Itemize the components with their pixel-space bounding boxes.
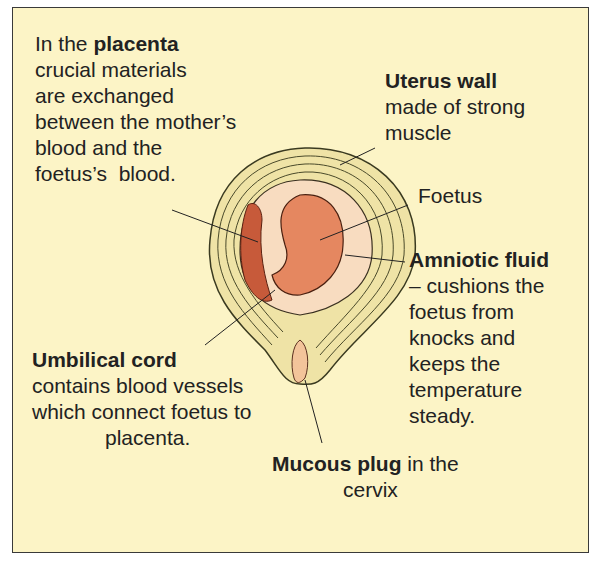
amniotic-fluid-term: Amniotic fluid bbox=[409, 248, 549, 271]
placenta-label: In the placenta bbox=[35, 32, 179, 57]
foetus-label: Foetus bbox=[418, 184, 482, 209]
placenta-desc-3: between the mother’s bbox=[35, 110, 236, 135]
placenta-desc-2: are exchanged bbox=[35, 84, 174, 109]
placenta-desc-4: blood and the bbox=[35, 136, 162, 161]
amniotic-desc-3: knocks and bbox=[409, 326, 515, 351]
uterus-wall-desc-1: made of strong bbox=[385, 95, 525, 120]
umbilical-desc-2: which connect foetus to bbox=[32, 400, 251, 425]
umbilical-cord-term: Umbilical cord bbox=[32, 348, 177, 371]
placenta-term: placenta bbox=[93, 32, 178, 55]
mucous-plug-desc-1: cervix bbox=[343, 478, 398, 503]
amniotic-desc-6: steady. bbox=[409, 404, 475, 429]
umbilical-desc-3: placenta. bbox=[105, 426, 190, 451]
uterus-wall-desc-2: muscle bbox=[385, 121, 452, 146]
umbilical-desc-1: contains blood vessels bbox=[32, 374, 243, 399]
mucous-plug-term: Mucous plug bbox=[272, 452, 402, 475]
amniotic-desc-2: foetus from bbox=[409, 300, 514, 325]
amniotic-desc-4: keeps the bbox=[409, 352, 500, 377]
amniotic-desc-5: temperature bbox=[409, 378, 522, 403]
placenta-desc-1: crucial materials bbox=[35, 58, 187, 83]
mucous-plug-label: Mucous plug in the bbox=[272, 452, 459, 477]
placenta-desc-5: foetus’s blood. bbox=[35, 162, 176, 187]
amniotic-desc-1: – cushions the bbox=[409, 274, 544, 299]
uterus-wall-term: Uterus wall bbox=[385, 69, 497, 92]
